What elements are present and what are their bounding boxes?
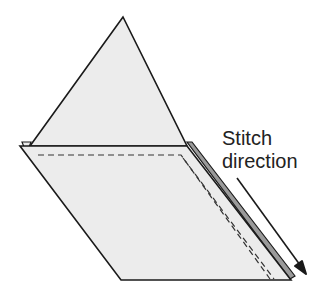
folded-triangle [30, 17, 187, 146]
label-direction: direction [222, 151, 298, 171]
direction-arrow-head [295, 261, 306, 274]
label-stitch: Stitch [222, 128, 272, 148]
